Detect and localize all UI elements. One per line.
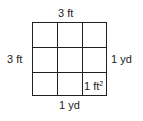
- grid-line-h1: [33, 47, 106, 48]
- unit-cell-label: 1 ft2: [84, 80, 103, 92]
- right-label: 1 yd: [111, 53, 132, 65]
- top-label: 3 ft: [58, 7, 73, 19]
- left-label: 3 ft: [7, 53, 22, 65]
- exponent: 2: [99, 80, 103, 87]
- bottom-label: 1 yd: [59, 99, 80, 111]
- grid-line-h2: [33, 72, 106, 73]
- grid-line-v1: [57, 23, 58, 95]
